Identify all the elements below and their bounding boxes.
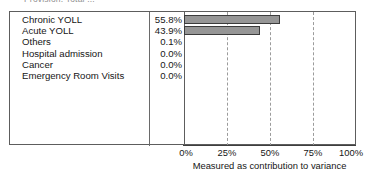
table-row: Chronic YOLL 55.8% [10, 14, 355, 25]
x-axis-tick-labels: 0% 25% 50% 75% 100% [183, 147, 356, 159]
tick-label-50: 50% [261, 147, 280, 159]
category-rows: Chronic YOLL 55.8% Acute YOLL 43.9% Othe… [10, 14, 355, 81]
bar-chronic-yoll [184, 15, 280, 23]
table-row: Hospital admission 0.0% [10, 48, 355, 59]
table-row: Acute YOLL 43.9% [10, 25, 355, 36]
bar-acute-yoll [184, 26, 260, 34]
x-axis-caption: Measured as contribution to variance [183, 160, 356, 171]
chart-panel: Chronic YOLL 55.8% Acute YOLL 43.9% Othe… [9, 11, 356, 145]
table-row: Emergency Room Visits 0.0% [10, 70, 355, 81]
tick-label-75: 75% [304, 147, 323, 159]
row-value: 0.0% [106, 59, 182, 70]
tick-label-0: 0% [179, 147, 193, 159]
row-bar-track [184, 25, 356, 36]
row-value: 55.8% [106, 14, 182, 25]
row-label: Acute YOLL [22, 25, 74, 36]
row-bar-track [184, 48, 356, 59]
row-value: 0.0% [106, 70, 182, 81]
row-label: Hospital admission [22, 48, 103, 59]
clipped-chart-title: Provision: Total ... [24, 0, 354, 2]
row-value: 0.0% [106, 48, 182, 59]
row-label: Chronic YOLL [22, 14, 82, 25]
row-bar-track [184, 14, 356, 25]
tick-label-100: 100% [339, 147, 363, 159]
row-bar-track [184, 70, 356, 81]
table-row: Cancer 0.0% [10, 59, 355, 70]
row-label: Others [22, 36, 51, 47]
row-value: 0.1% [106, 36, 182, 47]
row-bar-track [184, 59, 356, 70]
x-axis-line [183, 145, 356, 146]
tick-label-25: 25% [218, 147, 237, 159]
row-label: Cancer [22, 59, 53, 70]
row-bar-track [184, 36, 356, 47]
table-row: Others 0.1% [10, 36, 355, 47]
row-value: 43.9% [106, 25, 182, 36]
